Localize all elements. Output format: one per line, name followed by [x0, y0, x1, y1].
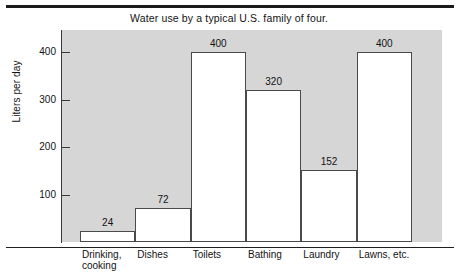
bar — [301, 170, 356, 242]
y-tick-label: 400 — [14, 47, 56, 57]
y-tick-label-wrap: 200 — [10, 147, 56, 148]
y-tick-mark — [61, 100, 70, 101]
bar-value-label: 24 — [80, 218, 135, 228]
bar-value-label: 400 — [191, 39, 246, 49]
y-tick-label: 200 — [14, 142, 56, 152]
y-tick-mark — [61, 195, 70, 196]
chart-title: Water use by a typical U.S. family of fo… — [0, 12, 458, 24]
bar — [135, 208, 190, 242]
bar — [191, 52, 246, 242]
bar-value-label: 72 — [135, 195, 190, 205]
y-tick-mark — [61, 147, 70, 148]
y-tick-label-wrap: 300 — [10, 100, 56, 101]
y-tick-label-wrap: 100 — [10, 195, 56, 196]
category-label: Lawns, etc. — [359, 249, 428, 260]
chart-figure: Water use by a typical U.S. family of fo… — [0, 0, 458, 274]
figure-top-rule — [6, 5, 454, 8]
y-tick-label: 100 — [14, 190, 56, 200]
bar — [357, 52, 412, 242]
figure-bottom-rule — [6, 247, 454, 248]
bar — [246, 90, 301, 242]
y-tick-mark — [61, 52, 70, 53]
y-tick-label-wrap: 400 — [10, 52, 56, 53]
y-axis-line — [61, 30, 62, 243]
y-tick-label: 300 — [14, 95, 56, 105]
bar-value-label: 152 — [301, 157, 356, 167]
bar-value-label: 320 — [246, 77, 301, 87]
bar-value-label: 400 — [357, 39, 412, 49]
bar — [80, 231, 135, 242]
